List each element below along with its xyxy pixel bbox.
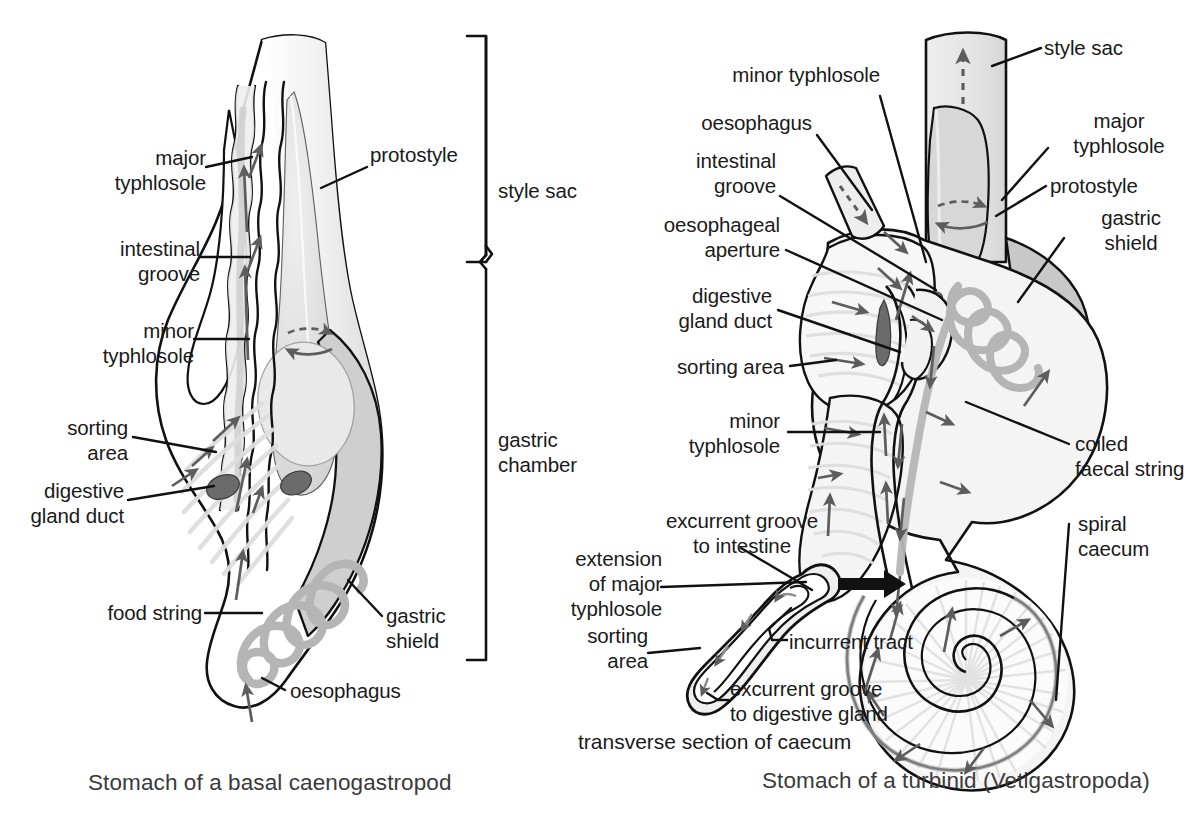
label-incurrent-tract: incurrent tract	[789, 629, 913, 654]
label-oesophageal-aperture-right: oesophageal aperture	[600, 212, 780, 262]
label-gastric-shield-right: gastric shield	[1068, 205, 1194, 255]
bracket-label-style-sac: style sac	[498, 178, 577, 203]
label-style-sac-right: style sac	[1044, 35, 1123, 60]
label-minor-typhlosole-left: minor typhlosole	[20, 318, 194, 368]
label-sorting-area-left: sorting area	[20, 415, 128, 465]
label-intestinal-groove-right: intestinal groove	[606, 148, 776, 198]
label-minor-typhlosole-right-top: minor typhlosole	[606, 62, 880, 87]
label-sorting-area-right: sorting area	[600, 354, 784, 379]
caption-right-panel: Stomach of a turbinid (Vetigastropoda)	[762, 768, 1150, 794]
label-spiral-caecum: spiral caecum	[1078, 511, 1149, 561]
label-excurrent-groove-to-digestive-gland: excurrent groove to digestive gland	[730, 676, 888, 726]
label-protostyle-left: protostyle	[370, 142, 458, 167]
caption-inset: transverse section of caecum	[578, 730, 851, 754]
figure-canvas: major typhlosole intestinal groove minor…	[0, 0, 1203, 832]
label-gastric-shield-left: gastric shield	[386, 603, 446, 653]
label-major-typhlosole-left: major typhlosole	[20, 145, 206, 195]
label-extension-of-major-typhlosole: extension of major typhlosole	[560, 546, 662, 621]
label-sorting-area-inset: sorting area	[552, 623, 648, 673]
bracket-label-gastric-chamber: gastric chamber	[498, 427, 577, 477]
label-digestive-gland-duct-left: digestive gland duct	[10, 478, 124, 528]
label-coiled-faecal-string: coiled faecal string	[1075, 431, 1184, 481]
left-panel-brackets	[467, 36, 492, 660]
label-food-string-left: food string	[20, 600, 202, 625]
label-oesophagus-left: oesophagus	[290, 678, 401, 703]
label-oesophagus-right: oesophagus	[606, 110, 812, 135]
label-major-typhlosole-right: major typhlosole	[1040, 108, 1198, 158]
label-intestinal-groove-left: intestinal groove	[20, 236, 200, 286]
label-digestive-gland-duct-right: digestive gland duct	[600, 283, 772, 333]
label-protostyle-right: protostyle	[1050, 173, 1138, 198]
label-minor-typhlosole-right: minor typhlosole	[600, 408, 780, 458]
caption-left-panel: Stomach of a basal caenogastropod	[88, 770, 452, 796]
